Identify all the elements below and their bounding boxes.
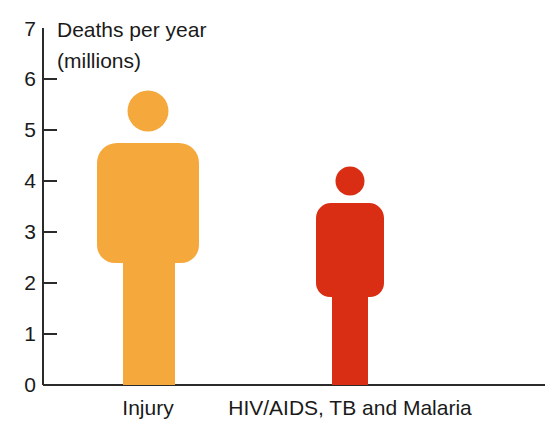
injury-figure-head-icon	[128, 91, 169, 132]
y-tick-label-2: 2	[24, 271, 36, 294]
category-label-hiv-tb-malaria: HIV/AIDS, TB and Malaria	[228, 396, 472, 419]
y-tick-label-3: 3	[24, 220, 36, 243]
y-tick-label-7: 7	[24, 17, 36, 40]
y-tick-label-5: 5	[24, 118, 36, 141]
y-tick-label-1: 1	[24, 322, 36, 345]
chart-title-line-1: Deaths per year	[57, 18, 206, 41]
chart-canvas: 0 1 2 3 4 5 6 7 Deaths per year (million…	[0, 0, 552, 439]
y-tick-label-0: 0	[24, 373, 36, 396]
y-tick-label-6: 6	[24, 67, 36, 90]
chart-title-line-2: (millions)	[57, 49, 141, 72]
y-tick-label-4: 4	[24, 169, 36, 192]
pictogram-chart: 0 1 2 3 4 5 6 7 Deaths per year (million…	[0, 0, 552, 439]
hiv-figure-head-icon	[336, 167, 365, 196]
category-label-injury: Injury	[122, 396, 174, 419]
